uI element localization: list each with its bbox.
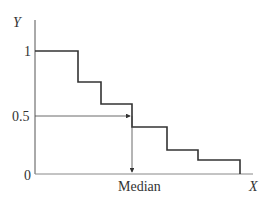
median-label: Median bbox=[118, 179, 161, 194]
y-axis-label: Y bbox=[13, 15, 23, 30]
y-tick-half: 0.5 bbox=[12, 109, 30, 124]
survival-step-line bbox=[35, 51, 240, 174]
y-tick-1: 1 bbox=[24, 44, 31, 59]
x-axis-label: X bbox=[248, 179, 258, 194]
y-tick-0: 0 bbox=[24, 168, 31, 183]
step-chart: Y 1 0.5 0 Median X bbox=[0, 0, 270, 203]
